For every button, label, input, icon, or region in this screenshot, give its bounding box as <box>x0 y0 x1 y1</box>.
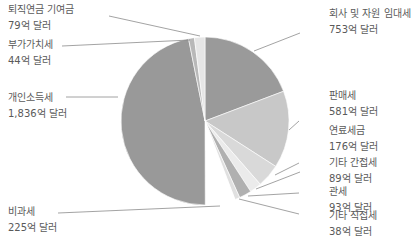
label-value: 176억 달러 <box>329 139 378 155</box>
label-name: 비과세 <box>8 204 57 220</box>
label-value: 1,836억 달러 <box>8 106 67 122</box>
label-name: 판매세 <box>329 88 378 104</box>
label-name: 퇴직연금 기여금 <box>8 2 74 18</box>
label-name: 부가가치세 <box>8 37 53 53</box>
label-value: 581억 달러 <box>329 104 378 120</box>
label-vat: 부가가치세 44억 달러 <box>8 37 53 69</box>
label-fuel-tax: 연료세금 176억 달러 <box>329 123 378 155</box>
label-name: 관세 <box>329 184 372 200</box>
label-value: 38억 달러 <box>329 224 377 240</box>
label-name: 연료세금 <box>329 123 378 139</box>
pie-slice <box>121 39 205 205</box>
pie-slices <box>121 37 289 205</box>
label-other-indirect-tax: 기타 간접세 89억 달러 <box>329 155 377 187</box>
label-non-tax: 비과세 225억 달러 <box>8 204 57 236</box>
label-name: 기타 직접세 <box>329 208 377 224</box>
label-sales-tax: 판매세 581억 달러 <box>329 88 378 120</box>
label-personal-income-tax: 개인소득세 1,836억 달러 <box>8 90 67 122</box>
label-value: 79억 달러 <box>8 18 74 34</box>
label-name: 개인소득세 <box>8 90 67 106</box>
label-other-direct-tax: 기타 직접세 38억 달러 <box>329 208 377 240</box>
label-value: 44억 달러 <box>8 53 53 69</box>
label-value: 753억 달러 <box>329 22 411 38</box>
label-retirement-pension: 퇴직연금 기여금 79억 달러 <box>8 2 74 34</box>
label-value: 225억 달러 <box>8 220 57 236</box>
label-name: 기타 간접세 <box>329 155 377 171</box>
label-name: 회사 및 자원 임대세 <box>329 6 411 22</box>
label-company-resource-tax: 회사 및 자원 임대세 753억 달러 <box>329 6 411 38</box>
